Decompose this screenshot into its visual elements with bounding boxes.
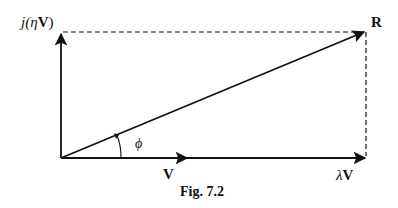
- resultant-r-vector: [61, 32, 364, 158]
- scaled-vector-label: λV: [335, 167, 354, 183]
- angle-arc: [117, 135, 121, 158]
- figure-caption: Fig. 7.2: [180, 184, 224, 199]
- vertical-vector-label: j(ηV): [19, 14, 53, 31]
- angle-label: ϕ: [135, 136, 142, 151]
- base-vector-label: V: [163, 166, 174, 182]
- resultant-label: R: [371, 14, 382, 30]
- vector-diagram: j(ηV) R ϕ V λV Fig. 7.2: [0, 0, 398, 208]
